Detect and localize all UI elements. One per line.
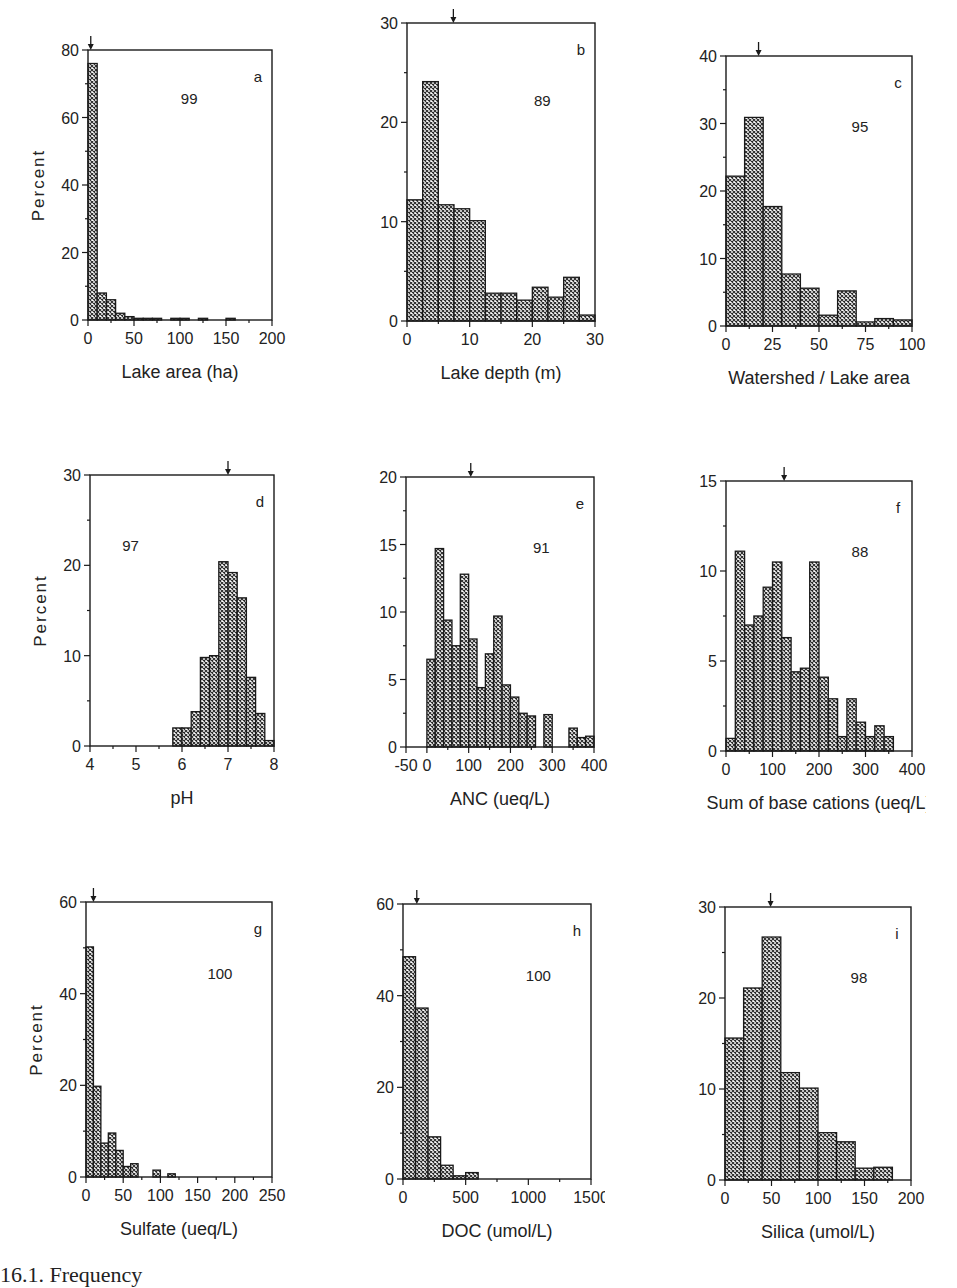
x-axis-label: Lake depth (m) <box>440 363 561 383</box>
histogram-bar <box>106 300 115 320</box>
sample-percent-label: 89 <box>534 92 551 109</box>
y-tick-label: 10 <box>379 604 397 621</box>
histogram-bar <box>782 274 801 326</box>
histogram-bar <box>893 320 912 326</box>
y-tick-label: 40 <box>376 988 394 1005</box>
sample-percent-label: 95 <box>852 118 869 135</box>
x-tick-label: 0 <box>722 336 731 353</box>
y-tick-label: 60 <box>376 896 394 913</box>
x-tick-label: 0 <box>721 1190 730 1207</box>
x-tick-label: 200 <box>221 1187 248 1204</box>
histogram-bar <box>123 1166 130 1177</box>
x-axis-label: Sum of base cations (ueq/L) <box>706 793 926 813</box>
x-tick-label: 0 <box>84 330 93 347</box>
x-tick-label: 50 <box>763 1190 781 1207</box>
histogram-bar <box>502 685 510 747</box>
histogram-bar <box>810 562 819 751</box>
y-tick-label: 0 <box>68 1169 77 1186</box>
histogram-bar <box>116 1150 123 1177</box>
x-tick-label: 0 <box>422 757 431 774</box>
histogram-bar <box>735 551 744 751</box>
x-tick-label: 0 <box>82 1187 91 1204</box>
histogram-bar <box>726 176 745 326</box>
sample-percent-label: 88 <box>852 543 869 560</box>
histogram-bar <box>548 297 564 321</box>
x-tick-label: 150 <box>184 1187 211 1204</box>
panel-letter: b <box>577 41 585 58</box>
histogram-bar <box>819 677 828 751</box>
panel-letter: d <box>256 493 264 510</box>
y-tick-label: 5 <box>388 672 397 689</box>
histogram-bar <box>577 738 585 747</box>
histogram-bar <box>837 1142 856 1180</box>
histogram-bar <box>569 728 577 747</box>
histogram-bar <box>791 672 800 751</box>
histogram-bar <box>782 638 791 751</box>
x-tick-label: 6 <box>178 756 187 773</box>
histogram-bar <box>586 736 594 747</box>
x-tick-label: 50 <box>810 336 828 353</box>
x-tick-label: 1000 <box>511 1189 547 1206</box>
x-tick-label: 10 <box>461 331 479 348</box>
histogram-bar <box>444 620 452 747</box>
histogram-bar <box>108 1133 115 1177</box>
y-tick-label: 0 <box>72 738 81 755</box>
y-tick-label: 20 <box>376 1079 394 1096</box>
x-tick-label: -50 <box>394 757 417 774</box>
x-tick-label: 0 <box>399 1189 408 1206</box>
histogram-bar <box>762 937 781 1180</box>
histogram-bar <box>763 207 782 326</box>
histogram-bar <box>93 1086 100 1177</box>
histogram-bar <box>527 716 535 747</box>
histogram-bar <box>116 313 125 320</box>
x-tick-label: 100 <box>759 761 786 778</box>
x-tick-label: 200 <box>259 330 286 347</box>
y-tick-label: 20 <box>380 114 398 131</box>
histogram-bar <box>838 291 857 326</box>
histogram-bar <box>200 657 209 746</box>
histogram-bar <box>86 947 93 1177</box>
x-tick-label: 4 <box>86 756 95 773</box>
y-axis-label: Percent <box>31 574 50 647</box>
histogram-bar <box>237 598 246 746</box>
histogram-bar <box>485 654 493 747</box>
histogram-bar <box>452 646 460 747</box>
y-tick-label: 10 <box>380 214 398 231</box>
panel-letter: a <box>254 68 263 85</box>
histogram-panel-b: 01020300102030Lake depth (m)b89 <box>347 3 609 405</box>
median-arrow-icon <box>756 42 762 56</box>
y-tick-label: 30 <box>698 899 716 916</box>
median-arrow-icon <box>414 890 420 904</box>
histogram-bar <box>403 957 416 1179</box>
histogram-bar <box>441 1165 454 1179</box>
histogram-bar <box>838 737 847 751</box>
y-tick-label: 20 <box>379 469 397 486</box>
histogram-bar <box>744 988 763 1180</box>
histogram-bar <box>818 1133 837 1180</box>
histogram-bar <box>460 574 468 747</box>
x-tick-label: 8 <box>270 756 279 773</box>
y-tick-label: 30 <box>380 15 398 32</box>
x-tick-label: 300 <box>852 761 879 778</box>
y-tick-label: 10 <box>699 563 717 580</box>
sample-percent-label: 100 <box>207 965 232 982</box>
y-tick-label: 30 <box>699 116 717 133</box>
panel-letter: i <box>895 925 898 942</box>
histogram-bar <box>884 737 893 751</box>
histogram-bar <box>210 656 219 746</box>
median-arrow-icon <box>90 888 96 902</box>
histogram-bar <box>265 741 274 746</box>
panel-letter: c <box>894 74 902 91</box>
y-tick-label: 40 <box>61 177 79 194</box>
histogram-bar <box>131 1164 138 1177</box>
y-tick-label: 20 <box>61 245 79 262</box>
median-arrow-icon <box>225 461 231 475</box>
x-axis-label: ANC (ueq/L) <box>450 789 550 809</box>
y-tick-label: 0 <box>388 739 397 756</box>
y-tick-label: 0 <box>707 1172 716 1189</box>
histogram-bar <box>423 82 439 321</box>
median-arrow-icon <box>781 467 787 481</box>
x-tick-label: 25 <box>764 336 782 353</box>
histogram-bar <box>454 209 470 321</box>
histogram-bar <box>847 699 856 751</box>
